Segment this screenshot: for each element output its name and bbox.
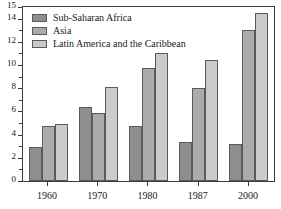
x-axis-tick-label: 1980 bbox=[122, 190, 172, 201]
legend-swatch bbox=[32, 14, 47, 22]
bar bbox=[79, 107, 92, 181]
legend-item: Latin America and the Caribbean bbox=[32, 38, 222, 49]
y-axis-tick-mark bbox=[18, 111, 22, 112]
y-axis-tick-mark bbox=[18, 158, 22, 159]
y-axis-tick-label: 8 bbox=[12, 82, 17, 91]
y-axis: 0246810121415 bbox=[0, 6, 22, 182]
y-axis-tick-label: 14 bbox=[7, 13, 16, 22]
bar bbox=[242, 30, 255, 181]
x-axis-tick: 1960 bbox=[22, 182, 72, 209]
bar bbox=[255, 13, 268, 181]
x-axis-tick-label: 2000 bbox=[223, 190, 273, 201]
bar bbox=[42, 126, 55, 181]
x-axis-tick-mark bbox=[198, 182, 199, 186]
y-axis-tick-mark bbox=[18, 135, 22, 136]
x-axis: 19601970198019872000 bbox=[22, 182, 275, 209]
y-axis-tick-mark bbox=[19, 30, 22, 31]
bar-chart: 0246810121415 19601970198019872000 Sub-S… bbox=[0, 0, 281, 209]
x-axis-tick-label: 1970 bbox=[72, 190, 122, 201]
bar bbox=[142, 68, 155, 181]
bar bbox=[92, 113, 105, 181]
x-axis-tick-label: 1987 bbox=[173, 190, 223, 201]
y-axis-tick-label: 10 bbox=[7, 59, 16, 68]
y-axis-tick-mark bbox=[18, 19, 22, 20]
legend-item-label: Latin America and the Caribbean bbox=[53, 38, 186, 49]
legend-item-label: Asia bbox=[53, 25, 71, 36]
x-axis-tick-mark bbox=[147, 182, 148, 186]
x-axis-tick: 1980 bbox=[122, 182, 172, 209]
y-axis-tick-mark bbox=[19, 53, 22, 54]
y-axis-tick-label: 12 bbox=[7, 36, 16, 45]
legend-item-label: Sub-Saharan Africa bbox=[53, 12, 132, 23]
y-axis-tick-mark bbox=[18, 65, 22, 66]
legend-swatch bbox=[32, 27, 47, 35]
y-axis-tick-mark bbox=[19, 169, 22, 170]
x-axis-tick: 2000 bbox=[223, 182, 273, 209]
bar bbox=[205, 60, 218, 181]
chart-legend: Sub-Saharan AfricaAsiaLatin America and … bbox=[32, 12, 222, 51]
y-axis-tick-mark bbox=[18, 42, 22, 43]
bar bbox=[229, 144, 242, 181]
bar bbox=[55, 124, 68, 181]
bar bbox=[129, 126, 142, 181]
y-axis-tick-mark bbox=[19, 123, 22, 124]
x-axis-tick-mark bbox=[248, 182, 249, 186]
bar bbox=[179, 142, 192, 181]
y-axis-tick-mark bbox=[19, 77, 22, 78]
x-axis-tick-label: 1960 bbox=[22, 190, 72, 201]
legend-item: Asia bbox=[32, 25, 222, 36]
y-axis-tick-mark bbox=[18, 7, 22, 8]
bar bbox=[155, 53, 168, 181]
x-axis-tick-mark bbox=[97, 182, 98, 186]
y-axis-tick-label: 4 bbox=[12, 129, 17, 138]
bar bbox=[192, 88, 205, 181]
y-axis-tick-mark bbox=[19, 146, 22, 147]
x-axis-tick: 1987 bbox=[173, 182, 223, 209]
legend-swatch bbox=[32, 40, 47, 48]
x-axis-tick: 1970 bbox=[72, 182, 122, 209]
y-axis-tick-label: 6 bbox=[12, 105, 17, 114]
legend-item: Sub-Saharan Africa bbox=[32, 12, 222, 23]
y-axis-tick-label: 2 bbox=[12, 152, 17, 161]
x-axis-tick-mark bbox=[47, 182, 48, 186]
y-axis-tick-mark bbox=[18, 88, 22, 89]
bar-group bbox=[229, 7, 268, 181]
bar bbox=[105, 87, 118, 181]
y-axis-tick-label: 15 bbox=[7, 1, 16, 10]
y-axis-tick-label: 0 bbox=[12, 175, 17, 184]
y-axis-tick-mark bbox=[19, 100, 22, 101]
bar bbox=[29, 147, 42, 181]
